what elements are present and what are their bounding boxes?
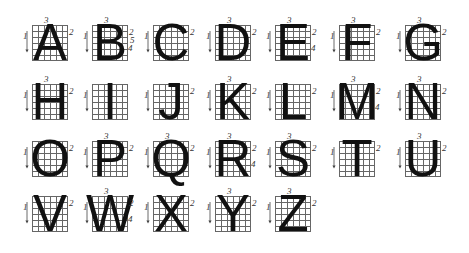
stroke-number: 1	[206, 90, 211, 100]
stroke-arrow-icon	[139, 182, 203, 246]
stroke-number: 3	[104, 186, 109, 196]
stroke-number: 2	[129, 198, 134, 208]
stroke-arrow-icon	[139, 70, 203, 134]
stroke-number: 3	[351, 15, 356, 25]
stroke-number: 4	[128, 214, 133, 224]
stroke-number: 1	[23, 31, 28, 41]
stroke-number: 1	[23, 90, 28, 100]
stroke-arrow-icon	[201, 182, 265, 246]
stroke-number: 1	[330, 31, 335, 41]
stroke-number: 2	[190, 86, 195, 96]
letter-cell-z: Z123	[275, 196, 311, 232]
letter-cell-t: T12	[339, 141, 375, 177]
stroke-number: 1	[330, 90, 335, 100]
stroke-number: 2	[312, 27, 317, 37]
letter-cell-l: L12	[275, 84, 311, 120]
stroke-arrow-icon	[261, 70, 325, 134]
stroke-number: 2	[69, 143, 74, 153]
letter-cell-h: H123	[32, 84, 68, 120]
letter-cell-n: N123	[405, 84, 441, 120]
stroke-arrow-icon	[391, 127, 455, 191]
stroke-arrow-icon	[201, 70, 265, 134]
stroke-number: 4	[375, 102, 380, 112]
stroke-number: 2	[190, 27, 195, 37]
stroke-number: 2	[312, 198, 317, 208]
stroke-number: 1	[144, 202, 149, 212]
letter-cell-r: R1234	[215, 141, 251, 177]
stroke-number: 3	[227, 131, 232, 141]
stroke-number: 1	[266, 31, 271, 41]
stroke-number: 3	[104, 15, 109, 25]
stroke-number: 1	[83, 202, 88, 212]
stroke-number: 3	[417, 74, 422, 84]
stroke-number: 1	[83, 147, 88, 157]
letter-cell-b: B12345	[92, 25, 128, 61]
stroke-number: 1	[396, 31, 401, 41]
stroke-number: 1	[266, 202, 271, 212]
stroke-number: 2	[129, 143, 134, 153]
stroke-number: 2	[312, 86, 317, 96]
stroke-number: 2	[442, 86, 447, 96]
letter-cell-x: X12	[153, 196, 189, 232]
stroke-number: 3	[287, 15, 292, 25]
letter-cell-w: W1234	[92, 196, 128, 232]
stroke-arrow-icon	[261, 182, 325, 246]
stroke-number: 1	[144, 31, 149, 41]
stroke-number: 2	[252, 198, 257, 208]
stroke-number: 2	[376, 86, 381, 96]
stroke-number: 1	[206, 31, 211, 41]
stroke-number: 1	[266, 90, 271, 100]
stroke-arrow-icon	[18, 70, 82, 134]
stroke-number: 3	[417, 15, 422, 25]
stroke-number: 1	[206, 202, 211, 212]
stroke-number: 1	[330, 147, 335, 157]
stroke-arrow-icon	[391, 70, 455, 134]
stroke-number: 2	[376, 143, 381, 153]
stroke-number: 4	[251, 159, 256, 169]
stroke-number: 1	[144, 147, 149, 157]
stroke-number: 1	[396, 147, 401, 157]
stroke-number: 2	[69, 86, 74, 96]
stroke-arrow-icon	[391, 11, 455, 75]
letter-cell-d: D123	[215, 25, 251, 61]
letter-cell-q: Q123	[153, 141, 189, 177]
stroke-number: 2	[252, 86, 257, 96]
letter-cell-s: S123	[275, 141, 311, 177]
stroke-arrow-icon	[78, 70, 142, 134]
letter-cell-k: K123	[215, 84, 251, 120]
stroke-number: 1	[23, 202, 28, 212]
letter-cell-u: U123	[405, 141, 441, 177]
stroke-number: 2	[376, 27, 381, 37]
stroke-number: 4	[311, 43, 316, 53]
letter-cell-p: P123	[92, 141, 128, 177]
stroke-number: 2	[69, 198, 74, 208]
letter-cell-v: V12	[32, 196, 68, 232]
stroke-number: 3	[44, 74, 49, 84]
letter-cell-m: M1234	[339, 84, 375, 120]
stroke-number: 1	[83, 90, 88, 100]
stroke-number: 3	[44, 15, 49, 25]
stroke-number: 1	[23, 147, 28, 157]
stroke-number: 3	[165, 131, 170, 141]
stroke-arrow-icon	[325, 11, 389, 75]
stroke-number: 3	[227, 186, 232, 196]
stroke-number: 2	[442, 143, 447, 153]
stroke-number: 2	[442, 27, 447, 37]
stroke-arrow-icon	[139, 11, 203, 75]
stroke-number: 2	[69, 27, 74, 37]
stroke-number: 1	[83, 31, 88, 41]
letter-cell-o: O12	[32, 141, 68, 177]
stroke-number: 3	[227, 74, 232, 84]
stroke-number: 3	[417, 131, 422, 141]
letter-cell-a: A123	[32, 25, 68, 61]
stroke-number: 3	[287, 186, 292, 196]
stroke-number: 1	[144, 90, 149, 100]
stroke-arrow-icon	[18, 11, 82, 75]
letter-cell-y: Y123	[215, 196, 251, 232]
stroke-arrow-icon	[201, 11, 265, 75]
stroke-number: 3	[104, 131, 109, 141]
stroke-number: 2	[190, 198, 195, 208]
stroke-number: 2	[252, 143, 257, 153]
stroke-number: 2	[190, 143, 195, 153]
stroke-arrow-icon	[18, 182, 82, 246]
